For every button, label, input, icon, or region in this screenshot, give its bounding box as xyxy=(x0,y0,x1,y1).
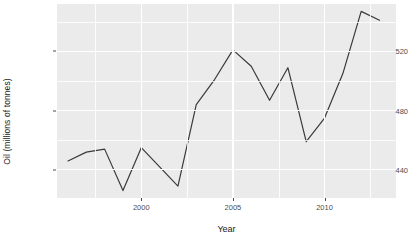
x-tick-mark xyxy=(233,198,234,201)
gridline-minor-horizontal xyxy=(57,140,396,141)
gridline-major-horizontal xyxy=(57,51,396,52)
x-tick-mark xyxy=(141,198,142,201)
x-tick-label: 2010 xyxy=(305,203,345,212)
y-tick-mark xyxy=(53,110,56,111)
gridline-minor-vertical xyxy=(95,4,96,198)
gridline-major-horizontal xyxy=(57,169,396,170)
gridline-major-vertical xyxy=(232,4,233,198)
x-tick-label: 2000 xyxy=(121,203,161,212)
x-tick-mark xyxy=(325,198,326,201)
plot-panel xyxy=(57,4,396,198)
gridline-major-horizontal xyxy=(57,110,396,111)
gridline-minor-horizontal xyxy=(57,81,396,82)
y-axis-title: Oil (millions of tonnes) xyxy=(0,0,14,243)
gridline-major-vertical xyxy=(141,4,142,198)
x-tick-label: 2005 xyxy=(213,203,253,212)
gridline-minor-vertical xyxy=(187,4,188,198)
y-tick-label: 520 xyxy=(356,47,408,56)
y-tick-mark xyxy=(53,169,56,170)
y-tick-label: 480 xyxy=(356,106,408,115)
y-tick-mark xyxy=(53,51,56,52)
gridline-minor-horizontal xyxy=(57,22,396,23)
x-axis-title: Year xyxy=(57,222,396,236)
chart-container: Oil (millions of tonnes) 440480520 20002… xyxy=(0,0,408,243)
gridline-major-vertical xyxy=(324,4,325,198)
gridline-minor-vertical xyxy=(279,4,280,198)
y-tick-label: 440 xyxy=(356,165,408,174)
